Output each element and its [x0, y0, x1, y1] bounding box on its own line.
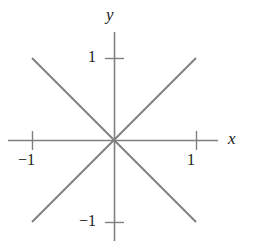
coordinate-plot-figure: y x −1 1 1 −1 — [0, 0, 256, 249]
y-tick-label-pos1: 1 — [88, 49, 96, 65]
y-tick-label-neg1: −1 — [79, 213, 96, 229]
plot-canvas — [0, 0, 256, 249]
y-axis-label: y — [106, 6, 114, 23]
x-tick-label-pos1: 1 — [187, 152, 195, 168]
x-axis-label: x — [228, 130, 236, 147]
x-tick-label-neg1: −1 — [18, 152, 35, 168]
